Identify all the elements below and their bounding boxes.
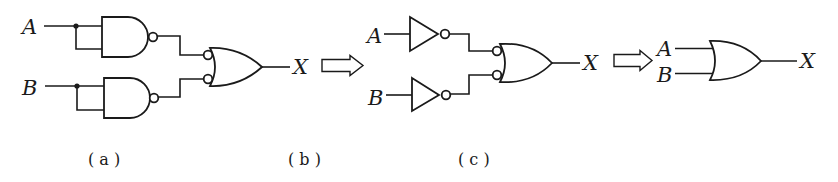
panel-b: A B X ( b ) bbox=[288, 17, 599, 169]
wire-bottom-to-or bbox=[451, 75, 493, 94]
input-label-b: B bbox=[656, 63, 672, 87]
not-gate-top bbox=[410, 17, 449, 51]
or-gate-inverted-inputs bbox=[204, 48, 262, 86]
inversion-bubble bbox=[149, 33, 158, 42]
logic-diagram: A B bbox=[0, 0, 838, 182]
wire-b-input bbox=[45, 83, 104, 110]
inversion-bubble bbox=[204, 51, 213, 60]
inversion-bubble bbox=[204, 75, 213, 84]
wire-top-to-or bbox=[450, 34, 493, 51]
output-label-x: X bbox=[581, 51, 599, 75]
junction-dot-b bbox=[74, 83, 79, 88]
inversion-bubble bbox=[441, 30, 450, 39]
input-label-a: A bbox=[655, 37, 672, 61]
or-gate bbox=[710, 41, 761, 80]
wire-a-input bbox=[44, 23, 102, 49]
input-label-b: B bbox=[21, 76, 37, 100]
nand-gate-top bbox=[102, 17, 157, 57]
implies-arrow-icon bbox=[614, 51, 652, 71]
input-label-b: B bbox=[367, 86, 383, 110]
wire-top-to-or bbox=[158, 36, 204, 55]
output-label-x: X bbox=[291, 55, 309, 79]
input-label-a: A bbox=[365, 24, 382, 48]
input-label-a: A bbox=[20, 15, 37, 39]
junction-dot-a bbox=[73, 23, 78, 28]
inversion-bubble bbox=[493, 47, 502, 56]
output-label-x: X bbox=[798, 49, 816, 73]
inversion-bubble bbox=[150, 94, 159, 103]
or-gate-inverted-inputs bbox=[493, 44, 552, 82]
inversion-bubble bbox=[493, 71, 502, 80]
caption-b: ( b ) bbox=[288, 150, 321, 169]
caption-c: ( c ) bbox=[458, 150, 490, 169]
implies-arrow-icon bbox=[322, 56, 363, 76]
not-gate-bottom bbox=[412, 78, 450, 111]
caption-a: ( a ) bbox=[88, 150, 120, 169]
panel-a: A B bbox=[20, 15, 309, 169]
wire-bottom-to-or bbox=[159, 79, 204, 97]
nand-gate-bottom bbox=[104, 78, 158, 118]
inversion-bubble bbox=[442, 91, 451, 100]
